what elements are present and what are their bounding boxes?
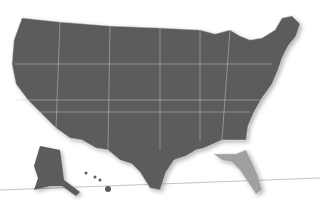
florida bbox=[214, 150, 262, 194]
map-svg bbox=[0, 0, 320, 203]
hawaii bbox=[85, 172, 112, 193]
us-map bbox=[0, 0, 320, 203]
